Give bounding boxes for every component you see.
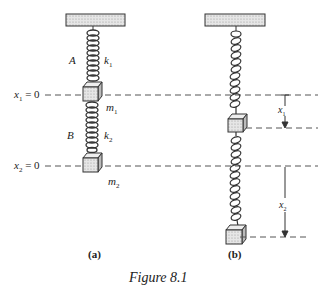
- mass-m2-label: m2: [108, 175, 120, 190]
- mass-2-displaced-icon: [226, 225, 246, 244]
- spring-a-letter: A: [68, 54, 76, 66]
- reference-label-x2: x2 = 0: [13, 159, 40, 174]
- spring-1-stretched-icon: [229, 31, 241, 115]
- ceiling-support-a: [66, 14, 125, 26]
- spring-a-icon: [87, 30, 99, 81]
- mass-m1-icon: [83, 82, 102, 101]
- panel-a: A k1 m1 B k2 m2 x1 = 0 x2 = 0 (a): [13, 14, 318, 261]
- displacement-x2-label: x2: [278, 199, 286, 212]
- spring-b-icon: [86, 102, 98, 153]
- spring-2-stretched-icon: [229, 132, 241, 226]
- reference-label-x1: x1 = 0: [13, 88, 40, 103]
- panel-b-label: (b): [228, 248, 242, 261]
- spring-b-letter: B: [67, 129, 74, 141]
- spring-b-constant: k2: [104, 129, 113, 144]
- mass-m2-icon: [83, 153, 102, 172]
- ceiling-support-b: [205, 14, 265, 26]
- displacement-x1-label: x1: [277, 104, 285, 117]
- panel-b: x1 x2 (b): [205, 14, 318, 261]
- figure-caption: Figure 8.1: [128, 270, 188, 285]
- mass-1-displaced-icon: [228, 114, 247, 132]
- figure-8-1: A k1 m1 B k2 m2 x1 = 0 x2 = 0 (a): [0, 0, 318, 291]
- mass-m1-label: m1: [106, 101, 118, 116]
- spring-a-constant: k1: [104, 54, 113, 69]
- panel-a-label: (a): [88, 248, 101, 261]
